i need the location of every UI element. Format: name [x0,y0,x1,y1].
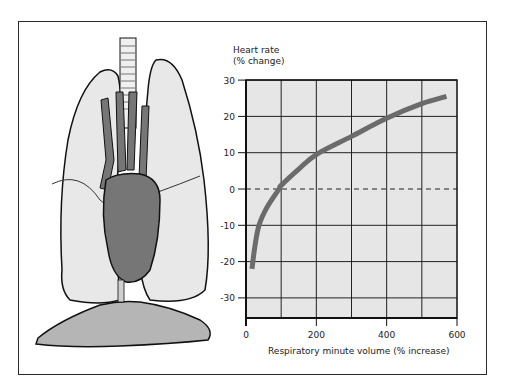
y-tick-label: 0 [229,185,235,195]
y-tick-label: 10 [224,148,236,158]
x-tick-label: 200 [308,330,325,340]
line-chart: 3020100-10-20-300200400600 [0,0,506,392]
y-tick-label: -10 [220,221,235,231]
y-tick-label: -30 [220,293,235,303]
y-tick-label: 30 [224,76,236,86]
x-tick-label: 600 [448,330,465,340]
x-tick-label: 0 [243,330,249,340]
y-tick-label: 20 [224,112,236,122]
x-tick-label: 400 [378,330,395,340]
y-tick-label: -20 [220,257,235,267]
